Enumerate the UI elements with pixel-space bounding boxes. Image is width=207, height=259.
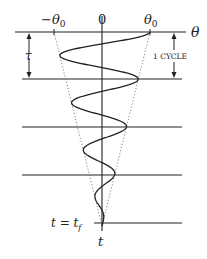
label-time-axis: t: [98, 234, 104, 249]
oscillation-diagram: −θ0 0 θ0 θ τ 1 CYCLE t = tf t: [0, 0, 207, 259]
oscillation-curve: [60, 32, 150, 226]
label-final-time: t = tf: [51, 216, 83, 232]
label-zero: 0: [98, 12, 106, 27]
label-theta-axis: θ: [191, 24, 200, 40]
label-theta0: θ0: [144, 12, 158, 29]
label-neg-theta0: −θ0: [41, 12, 66, 29]
label-cycle: 1 CYCLE: [153, 52, 187, 61]
label-tau: τ: [25, 49, 32, 63]
